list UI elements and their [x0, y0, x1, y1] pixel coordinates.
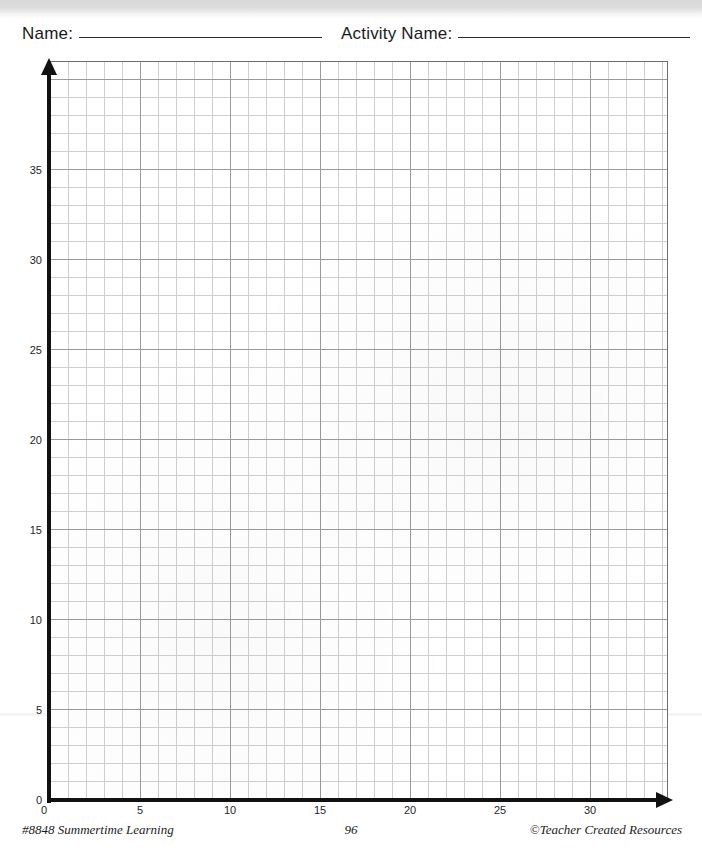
- x-axis-tick-label-15: 15: [309, 804, 331, 816]
- y-axis-tick-label-25: 25: [20, 344, 42, 356]
- x-axis-tick-label-5: 5: [129, 804, 151, 816]
- y-axis-tick-label-5: 5: [20, 704, 42, 716]
- y-axis-tick-label-10: 10: [20, 614, 42, 626]
- worksheet-page: Name: Activity Name: 0 5 10 15 20 25 30 …: [0, 0, 702, 855]
- x-axis-tick-label-25: 25: [489, 804, 511, 816]
- y-axis-tick-label-20: 20: [20, 434, 42, 446]
- y-axis-line: [47, 72, 51, 803]
- plot-grid-area[interactable]: [50, 61, 668, 800]
- y-axis-tick-label-15: 15: [20, 524, 42, 536]
- x-axis-tick-label-30: 30: [579, 804, 601, 816]
- graph-paper-chart: 0 5 10 15 20 25 30 35 0 5 10 15 20 25 30: [0, 0, 702, 855]
- x-axis-tick-label-20: 20: [399, 804, 421, 816]
- x-axis-tick-label-0: 0: [33, 804, 55, 816]
- footer-copyright: ©Teacher Created Resources: [530, 822, 682, 838]
- x-axis-arrow-icon: [656, 792, 673, 808]
- page-footer: #8848 Summertime Learning 96 ©Teacher Cr…: [0, 822, 702, 842]
- y-axis-arrow-icon: [41, 58, 57, 75]
- y-axis-tick-label-35: 35: [20, 164, 42, 176]
- x-axis-line: [48, 798, 659, 802]
- x-axis-tick-label-10: 10: [219, 804, 241, 816]
- y-axis-tick-label-30: 30: [20, 254, 42, 266]
